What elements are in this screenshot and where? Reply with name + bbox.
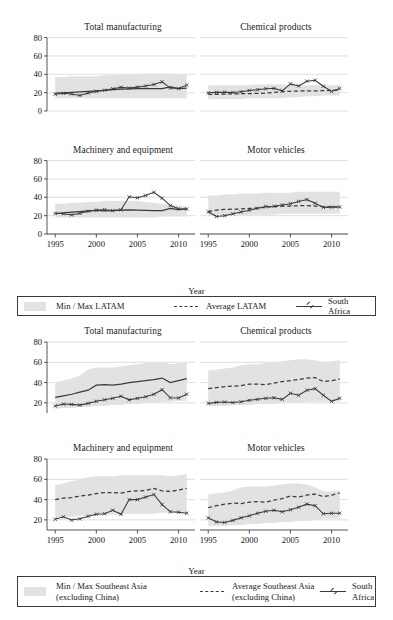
chart-svg: 020406080: [47, 33, 195, 111]
minmax-band-swatch-icon: [24, 587, 46, 596]
panel-title: Motor vehicles: [200, 443, 352, 453]
minmax-band: [208, 84, 340, 99]
chart-svg: [200, 33, 348, 111]
chart-svg: 1995200020052010: [200, 454, 348, 546]
x-axis-label-latam: Year: [0, 286, 393, 296]
x-tick-label: 1995: [47, 239, 64, 249]
chart-svg: 1995200020052010: [200, 156, 348, 250]
x-tick-label: 2005: [129, 535, 146, 545]
panel-seasia-1: Chemical products: [200, 326, 352, 416]
x-tick-label: 2000: [241, 239, 258, 249]
panel-title: Chemical products: [200, 22, 352, 32]
marker-line-swatch-icon: [320, 588, 346, 596]
y-tick-label: 40: [33, 192, 42, 202]
panel-latam-2: Machinery and equipment02040608019952000…: [47, 145, 199, 238]
legend-label-minmax-legend-item: Min / Max Southeast Asia (excluding Chin…: [24, 581, 200, 602]
panel-latam-0: Total manufacturing020406080: [47, 22, 199, 115]
legend-label-average: Average Southeast Asia (excluding China): [232, 581, 314, 602]
y-tick-label: 80: [33, 33, 42, 43]
minmax-band: [208, 483, 340, 526]
legend-label-minmax: Min / Max Southeast Asia (excluding Chin…: [56, 581, 147, 602]
chart-svg: 204060801995200020052010: [47, 454, 195, 546]
x-axis-label-seasia: Year: [0, 566, 393, 576]
x-tick-label: 2005: [282, 239, 299, 249]
plot-area: 020406080: [47, 33, 195, 111]
y-tick-label: 60: [33, 174, 42, 184]
plot-area: [200, 337, 348, 413]
y-tick-label: 60: [33, 51, 42, 61]
y-tick-label: 60: [33, 357, 42, 367]
panel-seasia-0: Total manufacturing20406080: [47, 326, 199, 416]
plot-area: 204060801995200020052010: [47, 454, 195, 546]
x-tick-label: 2010: [323, 535, 340, 545]
dashed-line-swatch-icon: [174, 306, 198, 307]
x-tick-label: 2005: [129, 239, 146, 249]
y-tick-label: 0: [38, 106, 42, 116]
y-tick-label: 60: [33, 474, 42, 484]
panel-latam-3: Motor vehicles1995200020052010: [200, 145, 352, 238]
x-tick-label: 1995: [200, 239, 217, 249]
y-tick-label: 40: [33, 69, 42, 79]
panel-title: Total manufacturing: [47, 326, 199, 336]
plot-area: 1995200020052010: [200, 454, 348, 546]
x-tick-label: 2000: [241, 535, 258, 545]
x-tick-label: 2010: [170, 239, 187, 249]
y-tick-label: 20: [33, 398, 42, 408]
x-tick-label: 2010: [170, 535, 187, 545]
y-tick-label: 40: [33, 495, 42, 505]
y-tick-label: 20: [33, 515, 42, 525]
y-tick-label: 80: [33, 454, 42, 464]
dashed-line-swatch-icon: [200, 591, 224, 592]
panel-seasia-3: Motor vehicles1995200020052010: [200, 443, 352, 533]
panel-title: Machinery and equipment: [47, 443, 199, 453]
panel-seasia-2: Machinery and equipment20406080199520002…: [47, 443, 199, 533]
x-tick-label: 1995: [200, 535, 217, 545]
panel-title: Total manufacturing: [47, 22, 199, 32]
chart-svg: 20406080: [47, 337, 195, 413]
x-tick-label: 2000: [88, 535, 105, 545]
plot-area: 20406080: [47, 337, 195, 413]
panel-title: Chemical products: [200, 326, 352, 336]
legend-seasia: Min / Max Southeast Asia (excluding Chin…: [17, 576, 376, 607]
minmax-band: [208, 192, 340, 216]
y-tick-label: 80: [33, 337, 42, 347]
minmax-band: [55, 362, 187, 409]
figure-latam: Total manufacturing020406080Chemical pro…: [0, 0, 393, 308]
y-tick-label: 40: [33, 378, 42, 388]
chart-svg: [200, 337, 348, 413]
panel-title: Motor vehicles: [200, 145, 352, 155]
panel-latam-1: Chemical products: [200, 22, 352, 115]
legend-label-south-africa: South Africa: [352, 581, 374, 602]
plot-area: 1995200020052010: [200, 156, 348, 250]
y-tick-label: 20: [33, 88, 42, 98]
legend-label-south-africa-legend-item: South Africa: [320, 581, 374, 602]
y-tick-label: 80: [33, 156, 42, 166]
panel-title: Machinery and equipment: [47, 145, 199, 155]
minmax-band: [55, 474, 187, 518]
figure-seasia: Total manufacturing20406080Chemical prod…: [0, 308, 393, 620]
chart-svg: 0204060801995200020052010: [47, 156, 195, 250]
x-tick-label: 2005: [282, 535, 299, 545]
y-tick-label: 0: [38, 229, 42, 239]
legend-label-average-legend-item: Average Southeast Asia (excluding China): [200, 581, 320, 602]
x-tick-label: 2000: [88, 239, 105, 249]
x-tick-label: 2010: [323, 239, 340, 249]
plot-area: 0204060801995200020052010: [47, 156, 195, 250]
plot-area: [200, 33, 348, 111]
y-tick-label: 20: [33, 211, 42, 221]
x-tick-label: 1995: [47, 535, 64, 545]
